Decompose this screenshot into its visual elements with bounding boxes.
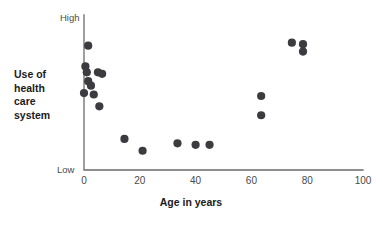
x-tick-label-80: 80 bbox=[287, 175, 327, 186]
data-point bbox=[288, 39, 296, 47]
y-axis-title-line-1: health bbox=[14, 82, 86, 96]
data-point bbox=[120, 135, 128, 143]
x-tick-label-0: 0 bbox=[64, 175, 104, 186]
data-point bbox=[87, 82, 95, 90]
y-axis-title-line-0: Use of bbox=[14, 68, 86, 82]
data-point bbox=[257, 111, 265, 119]
x-tick-label-20: 20 bbox=[120, 175, 160, 186]
data-point bbox=[90, 90, 98, 98]
data-point bbox=[299, 40, 307, 48]
x-axis-title: Age in years bbox=[0, 196, 382, 208]
data-point bbox=[192, 141, 200, 149]
chart-axes bbox=[84, 15, 363, 170]
data-point bbox=[98, 70, 106, 78]
data-point bbox=[205, 141, 213, 149]
y-axis-title-line-2: care bbox=[14, 95, 86, 109]
x-tick-label-60: 60 bbox=[231, 175, 271, 186]
data-point bbox=[257, 92, 265, 100]
x-tick-label-100: 100 bbox=[343, 175, 382, 186]
data-point bbox=[84, 42, 92, 50]
data-point bbox=[138, 147, 146, 155]
data-point bbox=[299, 48, 307, 56]
y-axis-low-label: Low bbox=[57, 165, 74, 175]
y-axis-high-label: High bbox=[60, 13, 80, 23]
y-axis-title: Use ofhealthcaresystem bbox=[14, 68, 86, 122]
scatter-chart: High Low Use ofhealthcaresystem Age in y… bbox=[0, 0, 382, 226]
data-point bbox=[95, 102, 103, 110]
y-axis-title-line-3: system bbox=[14, 109, 86, 123]
data-point bbox=[173, 139, 181, 147]
x-tick-label-40: 40 bbox=[176, 175, 216, 186]
